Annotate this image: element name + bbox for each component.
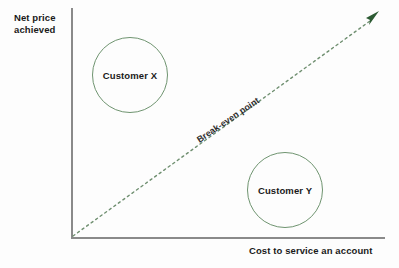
bubble-customer-y: Customer Y xyxy=(247,152,323,228)
chart-canvas: Net price achieved Cost to service an ac… xyxy=(0,0,399,268)
bubble-customer-x-label: Customer X xyxy=(103,70,157,81)
bubble-customer-x: Customer X xyxy=(92,37,168,113)
bubble-customer-y-label: Customer Y xyxy=(258,185,312,196)
